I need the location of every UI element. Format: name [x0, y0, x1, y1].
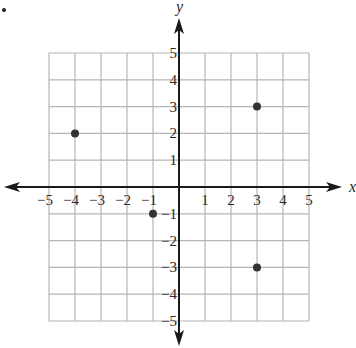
x-tick-label: −3 — [89, 192, 105, 208]
y-axis-label: y — [174, 0, 184, 16]
x-tick-label: −1 — [141, 192, 157, 208]
x-tick-label: 2 — [227, 192, 235, 208]
y-tick-label: −5 — [161, 313, 177, 329]
y-tick-label: 5 — [170, 45, 178, 61]
x-tick-label: 5 — [305, 192, 313, 208]
y-tick-label: 1 — [170, 152, 178, 168]
y-tick-label: 2 — [170, 125, 178, 141]
y-tick-label: 3 — [170, 99, 178, 115]
x-tick-label: 1 — [201, 192, 209, 208]
data-point — [71, 129, 79, 137]
y-tick-label: −2 — [161, 233, 177, 249]
x-tick-label: −5 — [37, 192, 53, 208]
data-point — [253, 263, 261, 271]
x-axis-label: x — [348, 178, 356, 195]
y-tick-label: −4 — [161, 286, 177, 302]
data-point — [253, 103, 261, 111]
data-point — [149, 210, 157, 218]
y-tick-label: 4 — [170, 72, 178, 88]
y-tick-label: −3 — [161, 259, 177, 275]
x-tick-label: −2 — [115, 192, 131, 208]
x-tick-label: 3 — [253, 192, 261, 208]
x-tick-label: 4 — [279, 192, 287, 208]
coordinate-plane: −5−4−3−2−112345 −5−4−3−2−112345 x y — [0, 0, 356, 348]
x-tick-label: −4 — [63, 192, 79, 208]
y-tick-label: −1 — [161, 206, 177, 222]
